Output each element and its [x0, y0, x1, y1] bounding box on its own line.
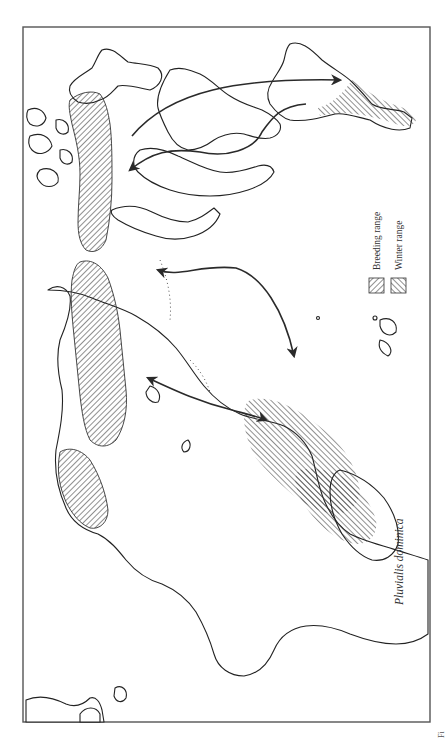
legend-winter-label: Winter range [394, 221, 404, 270]
breeding-hatch-swatch [369, 278, 384, 293]
arctic-archipelago [27, 108, 73, 186]
migration-map: Breeding range Winter range Pluvialis do… [0, 0, 448, 754]
winter-hatch-swatch [391, 278, 406, 293]
breeding-range-arctic-canada [69, 92, 112, 252]
figure-label-fragment: Fi [437, 731, 446, 738]
route-pacific-bidirectional [158, 267, 294, 356]
south-america [268, 43, 416, 130]
legend: Breeding range Winter range [369, 212, 406, 293]
legend-breeding-label: Breeding range [372, 212, 382, 270]
species-title: Pluvialis dominica [393, 518, 405, 606]
bering-dotted-line [160, 260, 171, 320]
africa [26, 687, 126, 722]
